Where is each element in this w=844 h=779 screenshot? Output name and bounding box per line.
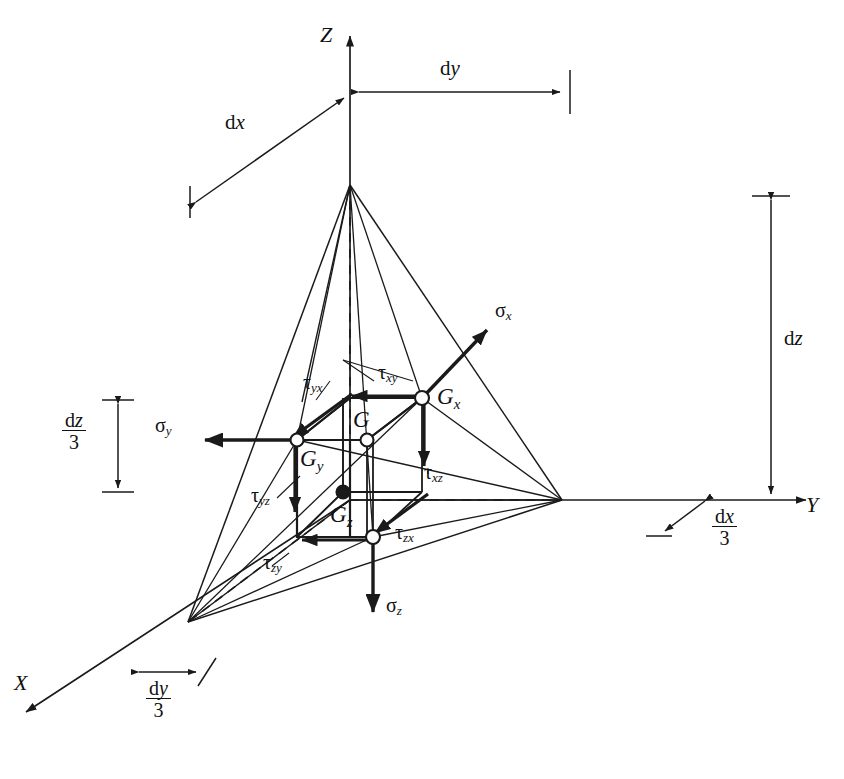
point-Gz-letter: G xyxy=(330,502,347,527)
point-label-G: G xyxy=(353,408,370,431)
dim-label-dx-over-3: dx 3 xyxy=(712,506,737,548)
dim-dz-var: z xyxy=(795,326,803,350)
axis-label-z: Z xyxy=(320,24,332,46)
frac-dx-d: d xyxy=(715,505,725,527)
point-Gy-letter: G xyxy=(300,446,317,471)
tau-yz-symbol: τ xyxy=(251,484,259,506)
fraction-dy-3-numerator: dy xyxy=(146,678,171,699)
tau-zy-symbol: τ xyxy=(263,551,271,573)
tau-yx-label: τyx xyxy=(303,372,323,394)
tetrahedron-interior-lines xyxy=(188,185,562,622)
tetrahedron-hidden-edges xyxy=(188,185,562,622)
point-G-marker xyxy=(361,434,374,447)
fraction-dz-3: dz 3 xyxy=(62,410,86,452)
dim-label-dz: dz xyxy=(784,328,803,349)
tau-xy-subscript: xy xyxy=(386,370,398,385)
tau-yz-subscript: yz xyxy=(259,493,270,508)
dim-dx xyxy=(190,98,344,218)
tetrahedron-origin-edges xyxy=(188,185,562,622)
point-G-letter: G xyxy=(353,407,370,432)
diagram-canvas: Z Y X dy dx dz dz 3 dx 3 dy 3 σx σy xyxy=(0,0,844,779)
tau-xy-symbol: τ xyxy=(378,361,386,383)
tau-xz-symbol: τ xyxy=(424,461,432,483)
sigma-y-label: σy xyxy=(155,415,172,437)
tau-zx-subscript: zx xyxy=(403,530,414,545)
dim-dx-d: d xyxy=(225,110,236,134)
dim-label-dy: dy xyxy=(440,58,460,79)
tau-yx-subscript: yx xyxy=(311,380,323,395)
sigma-z-label: σz xyxy=(386,595,402,617)
tau-yz-label: τyz xyxy=(251,485,270,507)
point-label-Gz: Gz xyxy=(330,503,352,530)
tau-zy-label: τzy xyxy=(263,552,282,574)
sigma-z-subscript: z xyxy=(397,603,402,618)
dim-dy-var: y xyxy=(451,56,460,80)
dim-label-dz-over-3: dz 3 xyxy=(62,410,86,452)
point-Gy-marker xyxy=(291,434,304,447)
frac-dy-var: y xyxy=(159,677,168,699)
dim-dy-d: d xyxy=(440,56,451,80)
fraction-dz-3-numerator: dz xyxy=(62,410,86,431)
tau-xz-subscript: xz xyxy=(432,470,443,485)
dim-dy xyxy=(359,70,570,114)
dim-dx-var: x xyxy=(236,110,245,134)
dim-dz-d: d xyxy=(784,326,795,350)
frac-dz-var: z xyxy=(75,409,83,431)
sigma-x-subscript: x xyxy=(506,308,512,323)
sigma-x-label: σx xyxy=(495,300,512,322)
fraction-dx-3: dx 3 xyxy=(712,506,737,548)
dim-label-dy-over-3: dy 3 xyxy=(146,678,171,720)
point-Gy-subscript: y xyxy=(317,458,324,474)
tau-xy-label: τxy xyxy=(378,362,398,384)
sigma-y-symbol: σ xyxy=(155,414,166,436)
frac-dy-d: d xyxy=(149,677,159,699)
point-Gx-letter: G xyxy=(437,384,454,409)
frac-dx-var: x xyxy=(725,505,734,527)
tau-yx-symbol: τ xyxy=(303,371,311,393)
fraction-dz-3-denominator: 3 xyxy=(62,431,86,452)
dim-dx-over-3 xyxy=(646,501,705,536)
point-Gv-marker xyxy=(366,530,380,544)
tau-zy-subscript: zy xyxy=(271,560,282,575)
point-Gz-marker xyxy=(337,486,350,499)
axis-label-y: Y xyxy=(806,494,818,516)
point-Gz-subscript: z xyxy=(347,514,353,530)
fraction-dy-3-denominator: 3 xyxy=(146,699,171,720)
stress-tetrahedron-svg xyxy=(0,0,844,779)
tau-zx-symbol: τ xyxy=(395,521,403,543)
tau-xz-label: τxz xyxy=(424,462,443,484)
axis-label-x: X xyxy=(14,672,27,694)
point-Gx-marker xyxy=(415,391,429,405)
frac-dz-d: d xyxy=(65,409,75,431)
sigma-x-symbol: σ xyxy=(495,299,506,321)
point-Gx-subscript: x xyxy=(454,396,461,412)
dim-dz-over-3 xyxy=(102,400,134,492)
dim-label-dx: dx xyxy=(225,112,245,133)
point-label-Gy: Gy xyxy=(300,447,323,474)
tetrahedron-outer-edges xyxy=(188,185,562,622)
point-label-Gx: Gx xyxy=(437,385,460,412)
sigma-z-symbol: σ xyxy=(386,594,397,616)
fraction-dy-3: dy 3 xyxy=(146,678,171,720)
fraction-dx-3-denominator: 3 xyxy=(712,527,737,548)
sigma-y-subscript: y xyxy=(166,423,172,438)
fraction-dx-3-numerator: dx xyxy=(712,506,737,527)
tau-zx-label: τzx xyxy=(395,522,414,544)
